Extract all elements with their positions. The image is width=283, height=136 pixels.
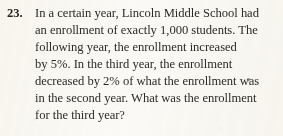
text-line: an enrollment of exactly 1,000 students.… [35, 22, 283, 39]
text-line: by 5%. In the third year, the enrollment [35, 56, 283, 73]
text-line: decreased by 2% of what the enrollment w… [35, 73, 283, 90]
problem-block: 23. In a certain year, Lincoln Middle Sc… [0, 0, 283, 136]
text-line: following year, the enrollment increased [35, 39, 283, 56]
problem-text: In a certain year, Lincoln Middle School… [35, 5, 283, 124]
text-line: in the second year. What was the enrollm… [35, 90, 283, 107]
problem-number: 23. [7, 5, 22, 22]
text-line: for the third year? [35, 107, 283, 124]
text-line: In a certain year, Lincoln Middle School… [35, 5, 283, 22]
